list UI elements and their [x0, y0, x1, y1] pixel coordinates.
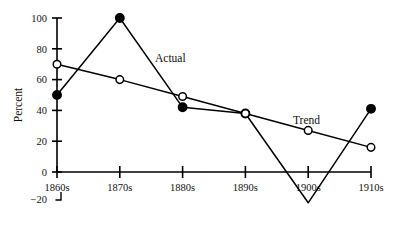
data-point-trend-1880s — [179, 93, 187, 101]
data-point-trend-1890s — [242, 110, 250, 118]
x-tick-label: 1860s — [44, 182, 69, 193]
data-point-actual-1910s — [367, 105, 375, 113]
y-tick-label: 80 — [37, 44, 48, 55]
x-tick-label: 1880s — [170, 182, 195, 193]
data-point-trend-1860s — [53, 60, 61, 68]
axis-break-label: −20 — [31, 194, 47, 205]
series-annotation-actual: Actual — [155, 52, 186, 64]
y-tick-label: 100 — [31, 13, 47, 24]
series-annotation-trend: Trend — [293, 114, 320, 126]
line-chart: 020406080100 1860s1870s1880s1890s1900s19… — [0, 0, 401, 225]
data-point-trend-1910s — [367, 144, 375, 152]
y-tick-label: 0 — [42, 167, 47, 178]
data-point-actual-1870s — [116, 14, 124, 22]
y-tick-label: 60 — [37, 74, 48, 85]
data-point-actual-1880s — [178, 103, 186, 111]
data-point-trend-1900s — [304, 127, 312, 135]
x-tick-label: 1890s — [233, 182, 258, 193]
data-point-actual-1860s — [53, 91, 61, 99]
x-tick-label: 1910s — [358, 182, 383, 193]
y-tick-label: 20 — [37, 136, 48, 147]
data-point-trend-1870s — [116, 76, 124, 84]
chart-container: 020406080100 1860s1870s1880s1890s1900s19… — [0, 0, 401, 225]
y-axis-title: Percent — [12, 87, 24, 122]
y-tick-label: 40 — [37, 105, 48, 116]
x-tick-label: 1870s — [107, 182, 132, 193]
